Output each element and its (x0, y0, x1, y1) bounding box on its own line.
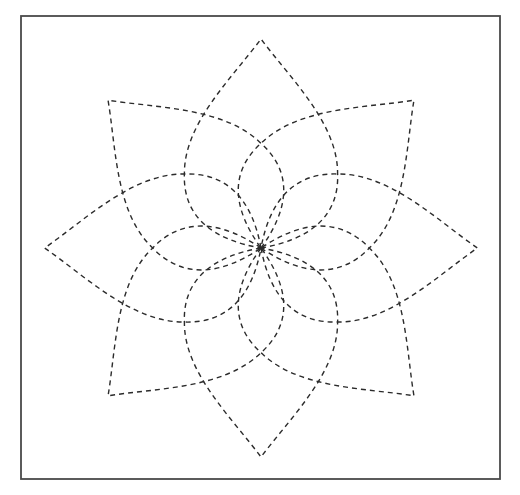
rosette-diagram (0, 0, 520, 495)
petal-5 (184, 248, 337, 457)
petal-1 (184, 39, 337, 248)
rosette (45, 39, 478, 457)
